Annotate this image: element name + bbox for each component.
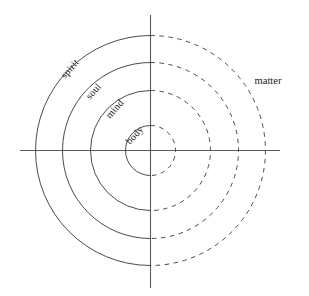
ring-labels-group: spirit soul mind body	[58, 57, 145, 147]
concentric-spheres-diagram: spirit soul mind body matter	[0, 0, 309, 296]
diagram-canvas: spirit soul mind body matter	[0, 0, 309, 296]
outer-labels-group: matter	[255, 75, 282, 86]
ring-label-soul: soul	[83, 81, 103, 101]
ring-label-mind: mind	[103, 97, 125, 120]
ring-label-spirit: spirit	[58, 57, 81, 81]
outer-label-matter: matter	[255, 75, 282, 86]
axes-group	[20, 15, 280, 288]
